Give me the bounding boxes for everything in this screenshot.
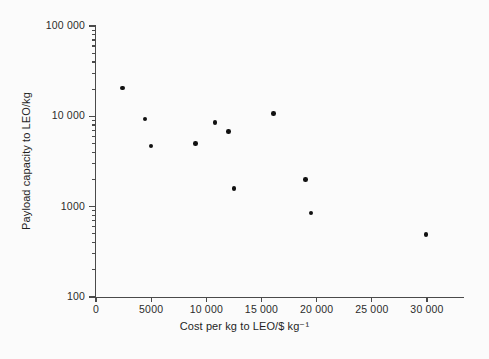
x-tick-label: 10 000: [190, 303, 223, 315]
x-tick-label: 15 000: [245, 303, 278, 315]
data-point: [193, 141, 198, 146]
x-tick-label: 5000: [139, 303, 163, 315]
data-point: [309, 211, 314, 216]
y-tick-label: 100 000: [0, 19, 91, 31]
data-point: [271, 111, 276, 116]
x-axis-title: Cost per kg to LEO/$ kg⁻¹: [0, 320, 489, 333]
data-point: [226, 129, 231, 134]
x-tick-label: 25 000: [355, 303, 388, 315]
data-point: [120, 86, 125, 91]
y-tick-label: 10 000: [0, 109, 91, 121]
x-tick-label: 0: [93, 303, 99, 315]
y-tick-label: 1000: [0, 200, 91, 212]
y-axis-title: Payload capacity to LEO/kg: [20, 51, 32, 271]
x-tick-label: 20 000: [300, 303, 333, 315]
y-tick-label: 100: [0, 290, 91, 302]
data-point: [424, 232, 429, 237]
data-point: [303, 177, 308, 182]
data-point: [143, 117, 148, 122]
data-point: [149, 144, 154, 149]
plot-area: [96, 26, 464, 297]
scatter-plot-figure: 100100010 000100 000 0500010 00015 00020…: [0, 0, 489, 359]
x-tick-label: 30 000: [410, 303, 443, 315]
data-point: [232, 186, 237, 191]
data-point: [213, 120, 218, 125]
